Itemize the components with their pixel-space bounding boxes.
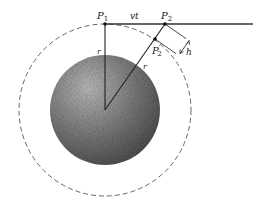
- label-p2prime: P′2: [151, 44, 162, 58]
- label-p1: P1: [96, 10, 108, 23]
- point-p2: [163, 22, 167, 26]
- diagram-canvas: P1 vt P2 P′2 r r h: [0, 0, 269, 207]
- label-h: h: [186, 47, 192, 57]
- label-r-vertical: r: [97, 47, 102, 56]
- label-vt: vt: [130, 11, 139, 21]
- point-p2prime: [153, 37, 157, 41]
- orbit-diagram: P1 vt P2 P′2 r r h: [0, 0, 269, 207]
- label-r-slanted: r: [143, 62, 148, 71]
- label-p2: P2: [160, 10, 172, 23]
